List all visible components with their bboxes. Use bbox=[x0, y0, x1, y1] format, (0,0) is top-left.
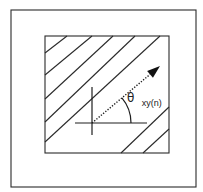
orientation-diagram: θ xy(n) bbox=[0, 0, 203, 192]
theta-subscript: xy(n) bbox=[142, 98, 162, 108]
background bbox=[0, 0, 203, 192]
theta-symbol: θ bbox=[127, 91, 134, 105]
